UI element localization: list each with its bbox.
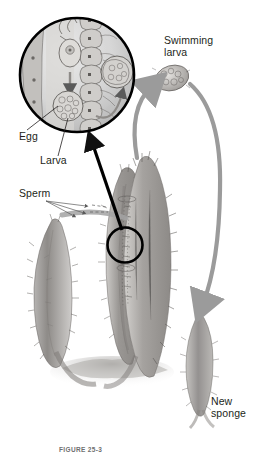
figure-caption: FIGURE 25-3 xyxy=(59,446,102,453)
larva-settle-arrow xyxy=(190,84,220,304)
larva-release-arrow xyxy=(135,86,152,158)
label-new-sponge-line2: sponge xyxy=(211,408,246,420)
label-sperm: Sperm xyxy=(19,188,50,200)
label-swimming-larva: Swimming larva xyxy=(164,35,213,58)
label-swimming-larva-line1: Swimming xyxy=(164,35,213,47)
swimming-larva-body xyxy=(152,61,192,94)
label-new-sponge-line1: New xyxy=(211,396,246,408)
illustration-layer xyxy=(0,0,260,453)
egg-cell xyxy=(59,39,81,67)
label-larva: Larva xyxy=(40,155,67,167)
label-swimming-larva-line2: larva xyxy=(164,47,213,59)
figure-canvas: Egg Larva Sperm Swimming larva New spong… xyxy=(0,0,260,453)
label-egg: Egg xyxy=(19,131,38,143)
label-new-sponge: New sponge xyxy=(211,396,246,419)
released-larva-cluster xyxy=(101,56,133,88)
